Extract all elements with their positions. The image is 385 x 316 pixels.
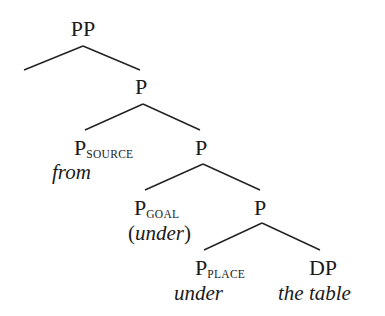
node-pp-label: PP: [71, 16, 95, 41]
word-from-text: from: [52, 160, 91, 184]
edge-p1-psource: [85, 104, 143, 130]
edge-p3-dp: [262, 223, 320, 250]
node-p-source-label: P: [74, 135, 86, 160]
node-dp: DP: [309, 257, 337, 279]
edge-pp-left: [24, 46, 83, 70]
node-p-goal-sub: GOAL: [146, 208, 179, 220]
node-p2-label: P: [195, 135, 207, 160]
word-under-parenthesized: (under): [128, 223, 191, 244]
node-dp-label: DP: [309, 255, 337, 280]
node-p1: P: [135, 76, 147, 98]
node-p-place-sub: PLACE: [207, 268, 245, 280]
node-p-source-sub: SOURCE: [86, 148, 133, 160]
open-paren: (: [128, 221, 135, 245]
word-the-table: the table: [278, 283, 351, 304]
edge-p2-pgoal: [145, 164, 203, 190]
node-p2: P: [195, 137, 207, 159]
close-paren: ): [184, 221, 191, 245]
edge-p3-pplace: [204, 223, 262, 250]
word-under-text: under: [174, 281, 223, 305]
edge-p2-p3: [203, 164, 260, 190]
edge-pp-p1: [83, 46, 140, 70]
edge-p1-p2: [143, 104, 200, 130]
node-p3-label: P: [254, 195, 266, 220]
word-from: from: [52, 162, 91, 183]
word-the-table-text: the table: [278, 281, 351, 305]
node-p-goal-label: P: [134, 195, 146, 220]
word-under: under: [174, 283, 223, 304]
node-p1-label: P: [135, 74, 147, 99]
node-p-place-label: P: [195, 255, 207, 280]
word-under-goal-text: under: [135, 221, 184, 245]
node-p3: P: [254, 197, 266, 219]
node-pp: PP: [71, 18, 95, 40]
